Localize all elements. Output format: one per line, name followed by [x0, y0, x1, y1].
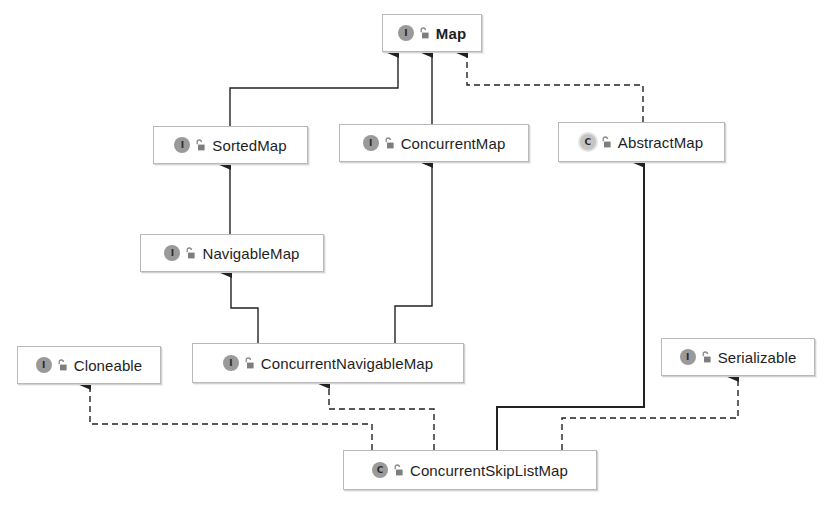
edge-concurrentnavigablemap-to-navigablemap — [231, 272, 258, 343]
class-name: ConcurrentNavigableMap — [261, 355, 433, 372]
inheritance-edges — [0, 0, 831, 507]
class-name: Map — [436, 25, 466, 42]
interface-icon: I — [680, 349, 696, 365]
lock-open-icon — [601, 136, 611, 148]
edge-concurrentskiplistmap-to-concurrentnavigablemap — [329, 383, 434, 450]
interface-icon: I — [36, 357, 52, 373]
class-node-concurrentmap[interactable]: I ConcurrentMap — [339, 124, 529, 162]
class-node-map[interactable]: I Map — [382, 14, 482, 52]
lock-open-icon — [57, 359, 67, 371]
class-name: Cloneable — [74, 357, 142, 374]
lock-open-icon — [185, 247, 195, 259]
class-name: Serializable — [718, 349, 797, 366]
class-name: SortedMap — [212, 137, 286, 154]
edge-concurrentskiplistmap-to-abstractmap — [497, 162, 644, 450]
edge-sortedmap-to-map — [230, 52, 398, 126]
class-node-concurrentskiplistmap[interactable]: C ConcurrentSkipListMap — [343, 450, 597, 490]
class-name: NavigableMap — [202, 245, 299, 262]
interface-icon: I — [174, 137, 190, 153]
class-node-serializable[interactable]: I Serializable — [661, 338, 815, 376]
edge-concurrentskiplistmap-to-serializable — [562, 376, 738, 450]
lock-open-icon — [244, 357, 254, 369]
abstract-class-icon: C — [580, 134, 596, 150]
interface-icon: I — [398, 25, 414, 41]
lock-open-icon — [195, 139, 205, 151]
lock-open-icon — [701, 351, 711, 363]
lock-open-icon — [393, 464, 403, 476]
uml-class-diagram: I Map I SortedMap I ConcurrentMap C Abst… — [0, 0, 831, 507]
edge-concurrentskiplistmap-to-cloneable — [90, 384, 372, 450]
interface-icon: I — [223, 355, 239, 371]
class-icon: C — [372, 462, 388, 478]
class-node-sortedmap[interactable]: I SortedMap — [153, 126, 308, 164]
class-name: ConcurrentSkipListMap — [410, 462, 568, 479]
edge-concurrentnavigablemap-to-concurrentmap — [395, 162, 432, 343]
interface-icon: I — [363, 135, 379, 151]
class-node-concurrentnavigablemap[interactable]: I ConcurrentNavigableMap — [192, 343, 464, 383]
class-name: AbstractMap — [618, 134, 703, 151]
interface-icon: I — [164, 245, 180, 261]
lock-open-icon — [384, 137, 394, 149]
class-node-navigablemap[interactable]: I NavigableMap — [140, 234, 324, 272]
class-node-cloneable[interactable]: I Cloneable — [17, 346, 161, 384]
class-node-abstractmap[interactable]: C AbstractMap — [558, 122, 725, 162]
class-name: ConcurrentMap — [401, 135, 506, 152]
lock-open-icon — [419, 27, 429, 39]
edge-abstractmap-to-map — [467, 52, 643, 122]
